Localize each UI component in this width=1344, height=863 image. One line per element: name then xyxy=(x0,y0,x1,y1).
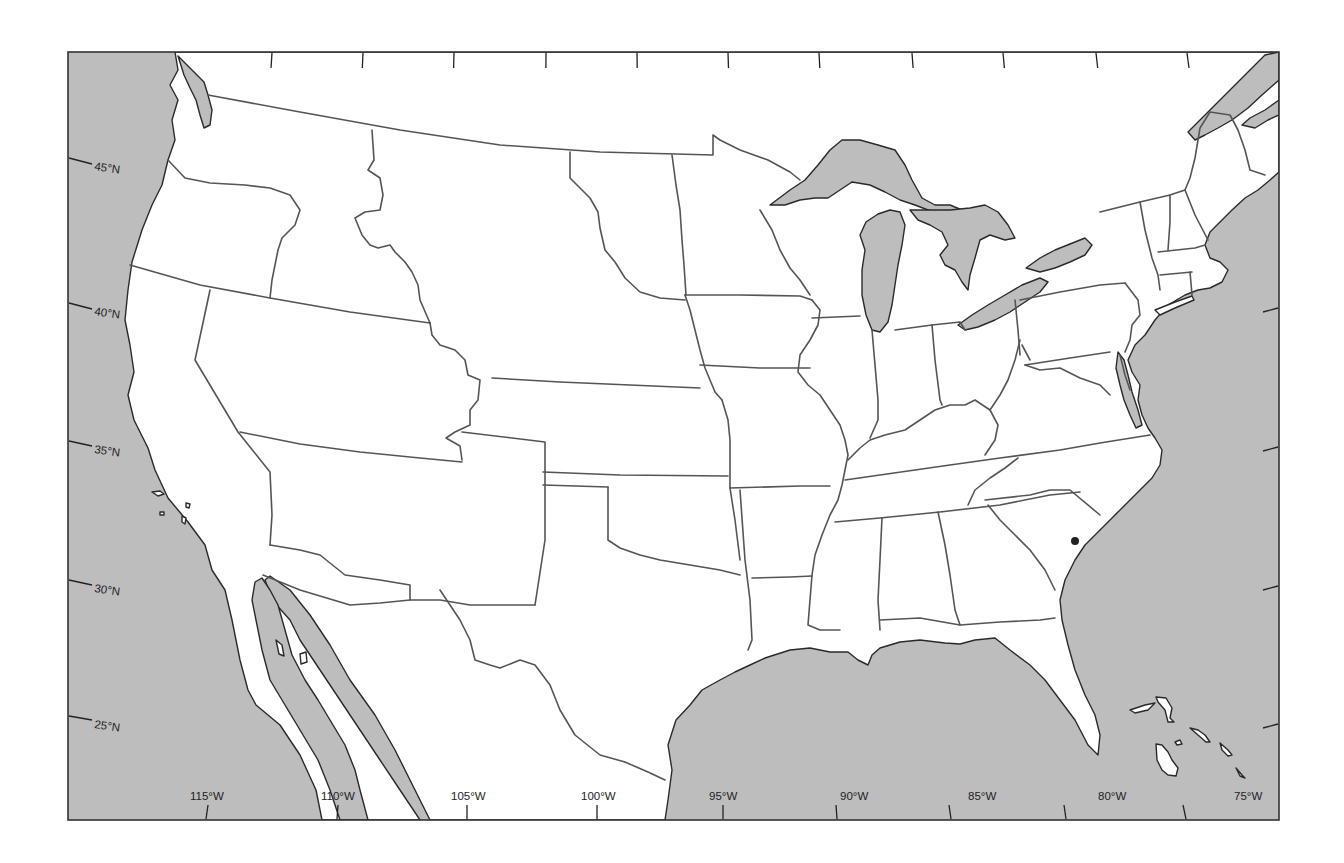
lon-label-110: 110°W xyxy=(321,790,355,802)
lon-label-95: 95°W xyxy=(709,790,737,802)
lon-label-100: 100°W xyxy=(581,790,616,802)
lon-label-90: 90°W xyxy=(840,790,868,802)
graticule-tick xyxy=(819,53,820,68)
lon-label-75: 75°W xyxy=(1234,790,1262,802)
lon-label-80: 80°W xyxy=(1098,790,1126,802)
city-marker-dot xyxy=(1071,537,1079,545)
lon-label-115: 115°W xyxy=(190,790,224,802)
map-canvas: 45°N 40°N 35°N 30°N 25°N 115°W 110°W 105… xyxy=(0,0,1344,863)
lon-label-85: 85°W xyxy=(968,790,996,802)
lon-label-105: 105°W xyxy=(451,790,486,802)
graticule-tick xyxy=(362,53,363,68)
graticule-tick xyxy=(728,53,729,68)
